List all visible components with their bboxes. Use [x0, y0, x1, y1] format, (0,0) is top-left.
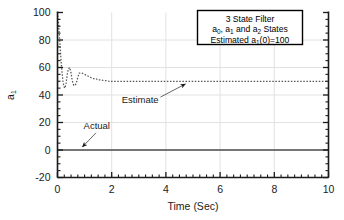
chart-figure: -200204060801000246810Time (Sec)a1Actual…	[0, 0, 344, 220]
y-axis-tick-label: 20	[39, 116, 51, 128]
actual-annotation-label: Actual	[84, 120, 110, 131]
y-axis-tick-label: 0	[45, 144, 51, 156]
estimate-annotation-label: Estimate	[122, 94, 159, 105]
y-axis-tick-label: 60	[39, 61, 51, 73]
y-axis-tick-label: 40	[39, 89, 51, 101]
legend-line3: Estimated a1(0)=100	[211, 35, 290, 46]
actual-annotation-arrow	[82, 133, 96, 147]
y-axis-tick-label: 100	[33, 6, 51, 18]
x-axis-tick-label: 8	[271, 183, 277, 195]
legend-line1: 3 State Filter	[226, 14, 275, 24]
x-axis-tick-label: 0	[55, 183, 61, 195]
y-axis-tick-label: -20	[35, 171, 50, 183]
x-axis-title: Time (Sec)	[168, 200, 219, 212]
y-axis-tick-label: 80	[39, 34, 51, 46]
y-axis-title: a1	[4, 90, 17, 100]
chart-canvas: -200204060801000246810Time (Sec)a1Actual…	[0, 0, 344, 220]
x-axis-tick-label: 4	[163, 183, 169, 195]
x-axis-tick-label: 10	[323, 183, 335, 195]
x-axis-tick-label: 2	[109, 183, 115, 195]
x-axis-tick-label: 6	[217, 183, 223, 195]
